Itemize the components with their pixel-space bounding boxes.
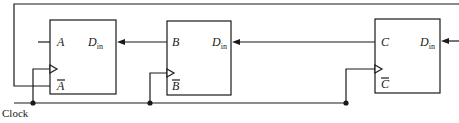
arrow-din-b-icon	[232, 39, 240, 45]
flip-flop-c: C Din C	[375, 19, 440, 93]
output-a-bar-label: A	[56, 79, 65, 93]
output-c-bar-label: C	[381, 77, 390, 91]
output-b-bar-label: B	[172, 79, 180, 93]
arrow-din-a-icon	[117, 39, 125, 45]
output-a-label: A	[56, 35, 65, 49]
arrow-din-c-icon	[441, 38, 449, 44]
output-c-label: C	[381, 35, 390, 49]
clock-wire-c	[346, 69, 375, 103]
clock-wire-b	[150, 73, 167, 103]
output-b-label: B	[172, 35, 180, 49]
shift-register-diagram: A Din A B Din B C Din C	[0, 0, 459, 123]
flip-flop-b: B Din B	[167, 21, 231, 95]
flip-flop-a: A Din A	[38, 20, 116, 94]
clock-label: Clock	[2, 107, 29, 119]
junction-dot-c	[343, 100, 348, 105]
junction-dot-a	[30, 100, 35, 105]
junction-dot-b	[147, 100, 152, 105]
